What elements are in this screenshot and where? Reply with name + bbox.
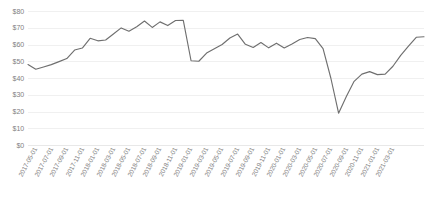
y-axis-tick-label: $30 — [0, 91, 24, 98]
line-chart: $80$70$60$50$40$30$20$10$0 2017-05-01201… — [0, 0, 428, 202]
y-axis-tick-label: $50 — [0, 58, 24, 65]
y-axis-tick-label: $40 — [0, 75, 24, 82]
series-layer — [28, 11, 424, 145]
y-axis-tick-label: $60 — [0, 41, 24, 48]
y-axis-tick-label: $70 — [0, 24, 24, 31]
x-axis: 2017-05-012017-07-012017-09-012017-11-01… — [28, 146, 428, 202]
plot-area — [28, 11, 424, 145]
y-axis-tick-label: $80 — [0, 8, 24, 15]
y-axis-tick-label: $10 — [0, 125, 24, 132]
price-series-line — [28, 20, 424, 113]
y-axis-tick-label: $20 — [0, 108, 24, 115]
y-axis: $80$70$60$50$40$30$20$10$0 — [0, 0, 24, 160]
y-axis-tick-label: $0 — [0, 142, 24, 149]
